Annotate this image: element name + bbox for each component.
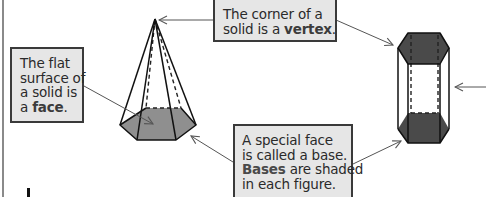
- arrow-to-prism-vertex: [336, 20, 393, 45]
- text: .: [64, 99, 68, 115]
- face-callout-line2: surface of: [20, 71, 82, 86]
- text: a: [20, 99, 32, 115]
- partial-mark: [27, 188, 30, 197]
- hexagonal-pyramid: [120, 19, 196, 140]
- face-callout: The flat surface of a solid is a face.: [10, 47, 84, 123]
- term-bases: Bases: [242, 161, 286, 177]
- term-vertex: vertex: [284, 21, 332, 37]
- text: solid is a: [223, 21, 284, 37]
- hexagonal-prism: [398, 33, 449, 143]
- vertex-callout-line1: The corner of a: [223, 7, 335, 22]
- arrow-to-pyramid-base: [191, 136, 233, 162]
- vertex-callout: The corner of a solid is a vertex.: [213, 0, 337, 42]
- text: are shaded: [286, 161, 364, 177]
- base-callout-line4: in each figure.: [242, 177, 351, 192]
- base-callout-line3: Bases are shaded: [242, 162, 351, 177]
- term-face: face: [32, 99, 63, 115]
- face-callout-line4: a face.: [20, 100, 82, 115]
- face-callout-line1: The flat: [20, 56, 82, 71]
- base-callout-line1: A special face: [242, 133, 351, 148]
- face-callout-line3: a solid is: [20, 85, 82, 100]
- base-callout-line2: is called a base.: [242, 148, 351, 163]
- base-callout: A special face is called a base. Bases a…: [233, 124, 353, 197]
- vertex-callout-line2: solid is a vertex.: [223, 22, 335, 37]
- text: .: [332, 21, 336, 37]
